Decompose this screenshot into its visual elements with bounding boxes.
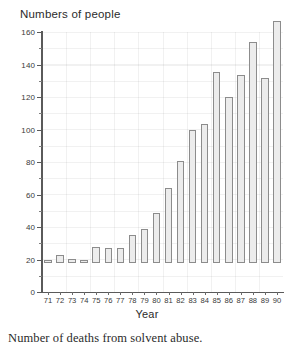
x-tick-label: 90 <box>267 296 287 305</box>
bar <box>56 255 63 263</box>
figure-caption: Number of deaths from solvent abuse. <box>8 331 294 346</box>
x-axis-line <box>41 292 284 293</box>
y-tick-minor <box>39 276 42 277</box>
y-tick-major <box>37 97 42 98</box>
bar-chart-figure: Numbers of people 020406080100120140160 … <box>0 0 294 326</box>
figure-page: Numbers of people 020406080100120140160 … <box>0 0 294 355</box>
bar <box>129 235 136 263</box>
y-tick-minor <box>39 211 42 212</box>
x-tick <box>181 292 182 295</box>
x-tick <box>96 292 97 295</box>
y-tick-label: 100 <box>0 125 35 134</box>
bar <box>44 260 51 263</box>
y-tick-label: 40 <box>0 223 35 232</box>
y-tick-label: 140 <box>0 60 35 69</box>
bar <box>261 78 268 263</box>
x-tick <box>193 292 194 295</box>
bar <box>92 247 99 263</box>
x-tick <box>108 292 109 295</box>
y-tick-major <box>37 292 42 293</box>
bar <box>249 42 256 263</box>
y-tick-minor <box>39 113 42 114</box>
x-tick <box>132 292 133 295</box>
x-tick <box>169 292 170 295</box>
x-tick <box>72 292 73 295</box>
y-tick-minor <box>39 243 42 244</box>
y-tick-major <box>37 162 42 163</box>
y-tick-label: 160 <box>0 28 35 37</box>
bar <box>117 248 124 263</box>
bar <box>201 124 208 263</box>
x-tick <box>84 292 85 295</box>
y-tick-minor <box>39 81 42 82</box>
x-tick <box>144 292 145 295</box>
y-tick-major <box>37 260 42 261</box>
x-tick <box>217 292 218 295</box>
bar <box>105 248 112 263</box>
y-tick-label: 120 <box>0 93 35 102</box>
bar <box>225 97 232 263</box>
y-tick-major <box>37 195 42 196</box>
bar <box>141 229 148 263</box>
y-tick-minor <box>39 146 42 147</box>
x-tick <box>156 292 157 295</box>
y-tick-label: 20 <box>0 255 35 264</box>
y-tick-major <box>37 130 42 131</box>
y-tick-minor <box>39 178 42 179</box>
y-tick-label: 80 <box>0 158 35 167</box>
x-tick <box>48 292 49 295</box>
x-tick <box>277 292 278 295</box>
y-tick-label: 60 <box>0 190 35 199</box>
x-tick <box>241 292 242 295</box>
x-tick <box>265 292 266 295</box>
bar <box>80 260 87 263</box>
x-tick <box>205 292 206 295</box>
x-tick <box>120 292 121 295</box>
x-axis-title: Year <box>0 308 294 320</box>
bar <box>165 188 172 263</box>
plot-area <box>42 32 283 292</box>
y-tick-major <box>37 32 42 33</box>
bar <box>213 72 220 263</box>
y-axis-title: Numbers of people <box>20 8 121 20</box>
bar <box>237 75 244 264</box>
bar <box>273 21 280 263</box>
y-tick-label: 0 <box>0 288 35 297</box>
bar <box>68 259 75 263</box>
y-tick-major <box>37 65 42 66</box>
y-tick-minor <box>39 48 42 49</box>
bar <box>177 161 184 263</box>
y-tick-major <box>37 227 42 228</box>
bar <box>153 213 160 263</box>
x-tick <box>229 292 230 295</box>
x-tick <box>60 292 61 295</box>
x-tick <box>253 292 254 295</box>
bar <box>189 130 196 263</box>
